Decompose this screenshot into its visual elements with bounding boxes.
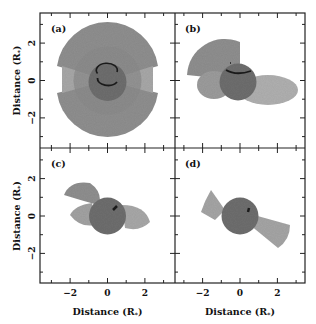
ytick-bot-0: 0 <box>27 213 37 219</box>
x-axis-label-left: Distance (R*) <box>73 306 143 318</box>
ytick-top-2: 2 <box>27 40 37 46</box>
xtick-left-0: 0 <box>104 288 110 298</box>
y-axis-label-top: Distance (R*) <box>11 46 23 116</box>
panel-label-d: (d) <box>185 158 201 169</box>
panel-label-a: (a) <box>51 23 66 34</box>
xtick-right-0: 0 <box>237 288 243 298</box>
y-axis-label-bottom: Distance (R*) <box>11 181 23 251</box>
panel-a <box>57 22 158 137</box>
panel-d <box>201 190 290 248</box>
panel-label-b: (b) <box>185 23 201 34</box>
ytick-bot-neg2: −2 <box>27 246 37 260</box>
xtick-right-neg2: −2 <box>196 288 210 298</box>
ytick-top-neg2: −2 <box>27 111 37 125</box>
xtick-left-neg2: −2 <box>63 288 77 298</box>
figure: (a) (b) (c) (d) 2 0 −2 2 0 −2 Distance (… <box>0 0 316 324</box>
ytick-top-0: 0 <box>27 77 37 83</box>
y-tick-labels: 2 0 −2 2 0 −2 <box>27 40 37 260</box>
xtick-left-2: 2 <box>142 288 148 298</box>
panel-c <box>64 183 150 235</box>
xtick-right-2: 2 <box>274 288 280 298</box>
ytick-bot-2: 2 <box>27 175 37 181</box>
x-axis-label-right: Distance (R*) <box>205 306 275 318</box>
x-tick-labels: −2 0 2 −2 0 2 <box>63 288 280 298</box>
panel-label-c: (c) <box>51 158 66 169</box>
panel-b <box>187 39 298 105</box>
